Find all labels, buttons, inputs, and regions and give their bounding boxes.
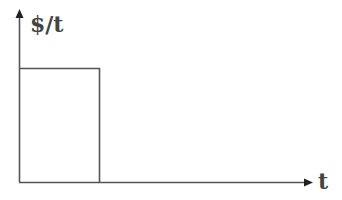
y-axis-label: $/t [30,11,64,37]
x-axis-label: t [318,168,328,194]
x-axis-arrowhead-icon [304,179,313,187]
rate-pulse-rectangle [20,69,100,183]
y-axis-arrowhead-icon [16,9,24,18]
